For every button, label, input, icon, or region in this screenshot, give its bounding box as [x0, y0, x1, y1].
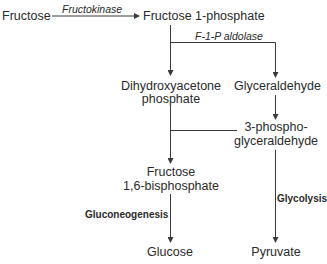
node-dhap-line2: phosphate	[115, 93, 227, 106]
enzyme-fructokinase: Fructokinase	[62, 4, 122, 15]
node-fructose-1-phosphate: Fructose 1-phosphate	[143, 10, 265, 23]
process-gluconeogenesis: Gluconeogenesis	[85, 209, 168, 220]
node-pyruvate: Pyruvate	[236, 246, 316, 259]
node-f16bp-line2: 1,6-bisphosphate	[115, 180, 227, 193]
enzyme-f1p-aldolase: F-1-P aldolase	[195, 31, 263, 42]
node-glyceraldehyde: Glyceraldehyde	[234, 80, 321, 93]
process-glycolysis: Glycolysis	[277, 193, 327, 204]
node-glucose: Glucose	[130, 246, 210, 259]
node-g3p-line2: glyceraldehyde	[230, 135, 322, 148]
arrow-f1p-to-glyceraldehyde	[171, 43, 276, 78]
node-fructose: Fructose	[2, 10, 51, 23]
node-f16bp-line1: Fructose	[115, 166, 227, 179]
node-g3p-line1: 3-phospho-	[230, 121, 322, 134]
